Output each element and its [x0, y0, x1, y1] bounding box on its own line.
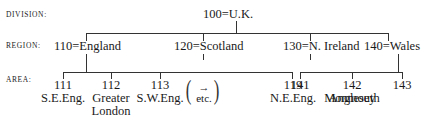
level-label-division: DIVISION: — [6, 10, 47, 19]
connector-wales-down — [398, 54, 399, 72]
connector-root-down — [236, 21, 237, 33]
etc-text: etc. — [193, 93, 215, 104]
node-region-scotland: 120=Scotland — [174, 39, 244, 54]
node-area-113: 113 S.W.Eng. — [135, 79, 185, 105]
node-area-141: 141 — [273, 79, 327, 92]
node-area-112: 112 Greater London — [89, 79, 133, 118]
level-label-area: AREA: — [6, 75, 32, 84]
node-region-england: 110=England — [54, 39, 121, 54]
connector-england-down — [86, 54, 87, 72]
node-area-111: 111 S.E.Eng. — [41, 79, 85, 105]
node-area-143: 143 — [386, 79, 418, 92]
node-area-142: 142 Anglesey — [328, 79, 376, 105]
left-paren: ( — [186, 76, 192, 104]
connector-n-ireland-stub — [310, 54, 311, 60]
etc-note: → etc. — [193, 82, 215, 104]
area-name: N.E.Eng. — [268, 92, 318, 105]
node-region-n-ireland: 130=N. Ireland — [283, 39, 359, 54]
area-name: S.W.Eng. — [135, 92, 185, 105]
area-name: S.E.Eng. — [41, 92, 85, 105]
right-paren: ) — [214, 76, 220, 104]
area-name-line2: London — [89, 105, 133, 118]
area-name: Anglesey — [328, 92, 376, 105]
area-code: 143 — [386, 79, 418, 92]
area-code: 141 — [273, 79, 327, 92]
connector-regions-bar — [86, 33, 389, 34]
connector-scotland-stub — [203, 54, 204, 60]
connector-england-areas-bar — [63, 72, 293, 73]
node-root-uk: 100=U.K. — [203, 7, 253, 22]
node-region-wales: 140=Wales — [364, 39, 420, 54]
level-label-region: REGION: — [6, 41, 41, 50]
